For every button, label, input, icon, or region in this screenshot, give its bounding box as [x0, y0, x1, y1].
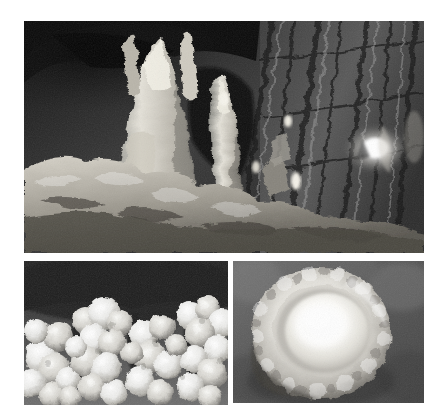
photo-cave-interior: cave interior chamber with stalactites, …	[24, 21, 424, 253]
cave-interior-illustration	[24, 21, 424, 253]
photo-cave-popcorn: cave popcorn (coralloid) botryoidal calc…	[24, 261, 228, 405]
photo-cave-pearl: cave pearl / rounded calcite nodule with…	[233, 261, 424, 403]
cave-pearl-illustration	[233, 261, 424, 403]
cave-popcorn-illustration	[24, 261, 228, 405]
figure-plate: cave interior chamber with stalactites, …	[0, 0, 448, 417]
